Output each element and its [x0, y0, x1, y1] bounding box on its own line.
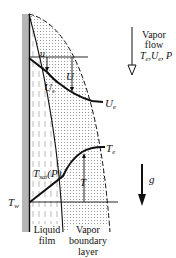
down-solid-arrow-icon [138, 164, 146, 206]
down-hollow-arrow-icon [128, 27, 136, 75]
label-Te: Te [106, 142, 115, 156]
condensation-diagram: u U Us Ue Te Tsat(P) T Tw Liquid film Va… [0, 0, 176, 258]
label-Tw: Tw [8, 196, 19, 210]
liquid-film-label-line1: Liquid [34, 224, 61, 235]
wall [22, 14, 29, 232]
label-Tsat: Tsat(P) [33, 167, 62, 181]
vapor-flow-label-line2: flow [145, 39, 164, 50]
label-g: g [149, 173, 155, 185]
label-T: T [80, 176, 87, 188]
label-u: u [40, 48, 45, 59]
label-Ue: Ue [105, 97, 116, 111]
vapor-bl-label-line2: boundary [69, 235, 107, 246]
vapor-bl-label-line1: Vapor [76, 224, 101, 235]
vapor-flow-params: Te,Ue, P [140, 50, 172, 62]
liquid-film-label-line2: film [39, 235, 56, 246]
label-U: U [66, 70, 75, 82]
vapor-bl-label-line3: layer [78, 246, 99, 257]
